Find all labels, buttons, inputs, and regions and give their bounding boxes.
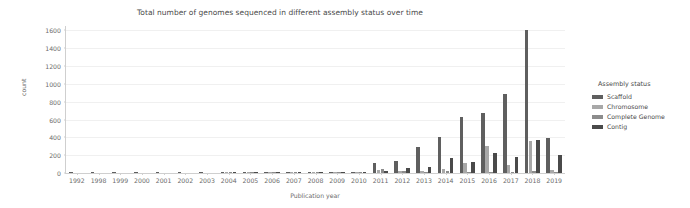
x-tick-label: 2004: [221, 177, 237, 184]
x-tick-mark: [77, 173, 78, 175]
bar: [546, 138, 550, 173]
x-tick-label: 2013: [416, 177, 432, 184]
gridline: [66, 30, 565, 31]
x-tick-label: 1998: [91, 177, 107, 184]
x-tick-mark: [250, 173, 251, 175]
x-tick-label: 1999: [112, 177, 128, 184]
x-tick-label: 2017: [503, 177, 519, 184]
x-tick-label: 1992: [69, 177, 85, 184]
x-tick-mark: [229, 173, 230, 175]
gridline: [66, 137, 565, 138]
legend-label: Scaffold: [607, 93, 632, 100]
x-tick-label: 2005: [243, 177, 259, 184]
bar: [428, 167, 432, 173]
bar: [529, 141, 533, 173]
x-tick-mark: [316, 173, 317, 175]
x-tick-label: 2014: [438, 177, 454, 184]
x-tick-label: 2018: [525, 177, 541, 184]
legend-item[interactable]: Complete Genome: [592, 112, 688, 121]
x-tick-label: 2019: [546, 177, 562, 184]
legend-swatch-icon: [592, 95, 603, 99]
chart-figure: Total number of genomes sequenced in dif…: [0, 0, 690, 208]
x-tick-label: 2000: [134, 177, 150, 184]
x-tick-label: 2006: [264, 177, 280, 184]
x-tick-mark: [120, 173, 121, 175]
x-tick-mark: [99, 173, 100, 175]
bar: [233, 172, 237, 173]
gridline: [66, 120, 565, 121]
bar: [485, 146, 489, 173]
x-tick-mark: [381, 173, 382, 175]
legend-item[interactable]: Scaffold: [592, 92, 688, 101]
bar: [471, 162, 475, 173]
legend-item[interactable]: Contig: [592, 122, 688, 131]
gridline: [66, 102, 565, 103]
legend-label: Complete Genome: [607, 113, 665, 120]
x-tick-label: 2007: [286, 177, 302, 184]
x-tick-label: 2015: [459, 177, 475, 184]
y-tick-label: 1200: [45, 63, 61, 70]
bar: [341, 172, 345, 173]
y-tick-mark: [64, 30, 66, 31]
bar: [178, 172, 182, 173]
bar: [156, 172, 160, 173]
bar: [69, 172, 73, 173]
x-tick-mark: [142, 173, 143, 175]
y-tick-label: 1600: [45, 27, 61, 34]
bar: [536, 140, 540, 173]
y-tick-label: 400: [49, 134, 61, 141]
bar: [298, 172, 302, 173]
plot-area: 0200400600800100012001400160019921998199…: [65, 26, 565, 174]
x-tick-mark: [185, 173, 186, 175]
legend-swatch-icon: [592, 105, 603, 109]
x-tick-label: 2002: [177, 177, 193, 184]
x-tick-label: 2012: [394, 177, 410, 184]
bar: [134, 172, 138, 173]
bar: [384, 171, 388, 173]
y-axis-label: count: [20, 79, 27, 96]
x-tick-mark: [467, 173, 468, 175]
y-tick-label: 1400: [45, 45, 61, 52]
legend-item[interactable]: Chromosome: [592, 102, 688, 111]
y-tick-mark: [64, 101, 66, 102]
legend-title: Assembly status: [598, 80, 688, 88]
bar: [406, 168, 410, 173]
x-tick-label: 2016: [481, 177, 497, 184]
x-tick-label: 2008: [308, 177, 324, 184]
legend-label: Chromosome: [607, 103, 648, 110]
x-tick-mark: [359, 173, 360, 175]
y-tick-mark: [64, 137, 66, 138]
x-tick-label: 2009: [329, 177, 345, 184]
y-tick-label: 0: [57, 170, 61, 177]
x-tick-mark: [424, 173, 425, 175]
bar: [112, 172, 116, 173]
bar: [515, 157, 519, 173]
x-tick-mark: [272, 173, 273, 175]
bar: [503, 94, 507, 173]
legend-swatch-icon: [592, 115, 603, 119]
bar: [493, 153, 497, 173]
y-tick-mark: [64, 155, 66, 156]
legend-items: ScaffoldChromosomeComplete GenomeContig: [592, 92, 688, 131]
y-tick-label: 800: [49, 98, 61, 105]
bar: [450, 158, 454, 173]
bar: [91, 172, 95, 173]
bar: [416, 147, 420, 173]
x-tick-label: 2010: [351, 177, 367, 184]
x-tick-label: 2001: [156, 177, 172, 184]
x-tick-mark: [511, 173, 512, 175]
bar: [199, 172, 203, 173]
legend: Assembly status ScaffoldChromosomeComple…: [592, 80, 688, 132]
y-tick-mark: [64, 83, 66, 84]
bar: [363, 172, 367, 173]
gridline: [66, 84, 565, 85]
legend-swatch-icon: [592, 125, 603, 129]
x-tick-mark: [402, 173, 403, 175]
x-tick-label: 2003: [199, 177, 215, 184]
x-tick-mark: [164, 173, 165, 175]
bar: [319, 172, 323, 173]
x-tick-mark: [532, 173, 533, 175]
bar: [438, 137, 442, 173]
gridline: [66, 155, 565, 156]
legend-label: Contig: [607, 123, 627, 130]
